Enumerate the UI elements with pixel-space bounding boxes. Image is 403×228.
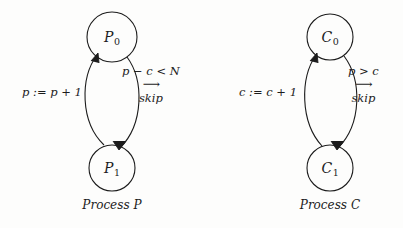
state-label-p1: P1 [104,160,120,176]
state-label-p0-base: P [104,29,114,45]
state-label-p0-subscript: 0 [114,36,120,47]
state-label-c1: C1 [321,160,338,176]
state-label-p1-base: P [104,160,114,176]
arrowhead-c1-to-c0 [310,53,318,63]
guard-body-c: skip [351,91,375,105]
state-label-c0-base: C [321,29,332,45]
guard-condition-p: p − c < N [122,64,180,78]
state-label-c0-subscript: 0 [333,36,339,47]
state-label-p1-subscript: 1 [114,167,120,178]
right-arrow-icon-c: ⟶ [355,79,371,90]
state-label-c1-subscript: 1 [333,167,339,178]
caption-process-c: ProcessC [300,198,360,212]
caption-prefix-c: Process [300,198,347,212]
state-label-p0: P0 [104,29,120,45]
caption-process-p: ProcessP [82,198,141,212]
edge-label-p-assignment: p := p + 1 [22,85,82,99]
edge-p1-to-p0 [85,55,104,145]
caption-name-p: P [134,198,142,212]
edge-c1-to-c0 [305,55,322,146]
caption-prefix-p: Process [82,198,129,212]
state-label-c0: C0 [321,29,338,45]
right-arrow-icon-p: ⟶ [143,79,159,90]
edge-label-c-assignment: c := c + 1 [239,85,297,99]
caption-name-c: C [351,198,360,212]
process-c-diagram: C0 C1 c := c + 1 p > c ⟶ skip ProcessC [200,0,403,228]
edge-label-p-guarded-command: p − c < N ⟶ skip [122,64,180,105]
process-p-diagram: P0 P1 p := p + 1 p − c < N ⟶ skip Proces… [0,0,203,228]
state-label-c1-base: C [321,160,332,176]
figure-canvas: P0 P1 p := p + 1 p − c < N ⟶ skip Proces… [0,0,403,228]
arrowhead-p1-to-p0 [91,53,99,63]
process-p-graph [0,0,203,228]
guard-condition-c: p > c [348,64,379,78]
process-c-graph [200,0,403,228]
edge-label-c-guarded-command: p > c ⟶ skip [348,64,379,105]
guard-body-p: skip [139,91,163,105]
